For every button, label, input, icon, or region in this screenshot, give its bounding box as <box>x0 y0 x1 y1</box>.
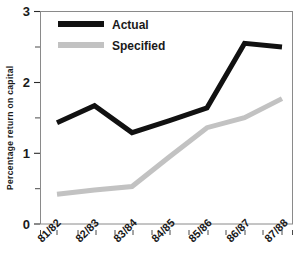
x-tick-label-3: 84/85 <box>149 216 177 244</box>
chart-container: 3 2 1 0 Percentage return on capital 81/… <box>0 0 307 270</box>
y-tick-label-3: 3 <box>23 4 30 19</box>
y-axis-minor-ticks <box>35 47 40 189</box>
legend-label-specified: Specified <box>112 39 165 53</box>
line-chart: 3 2 1 0 Percentage return on capital 81/… <box>0 0 307 270</box>
y-axis-title: Percentage return on capital <box>5 65 15 190</box>
y-tick-label-2: 2 <box>23 75 30 90</box>
x-tick-label-4: 85/86 <box>186 216 214 244</box>
x-tick-label-5: 86/87 <box>224 216 252 244</box>
series-line-specified <box>57 99 282 195</box>
chart-legend: Actual Specified <box>58 18 165 53</box>
y-tick-label-0: 0 <box>23 217 30 232</box>
series-line-actual <box>57 43 282 132</box>
legend-label-actual: Actual <box>112 18 149 32</box>
x-tick-label-1: 82/83 <box>73 216 101 244</box>
x-tick-label-6: 87/88 <box>262 216 290 244</box>
x-tick-label-0: 81/82 <box>35 216 63 244</box>
y-tick-label-1: 1 <box>23 146 30 161</box>
